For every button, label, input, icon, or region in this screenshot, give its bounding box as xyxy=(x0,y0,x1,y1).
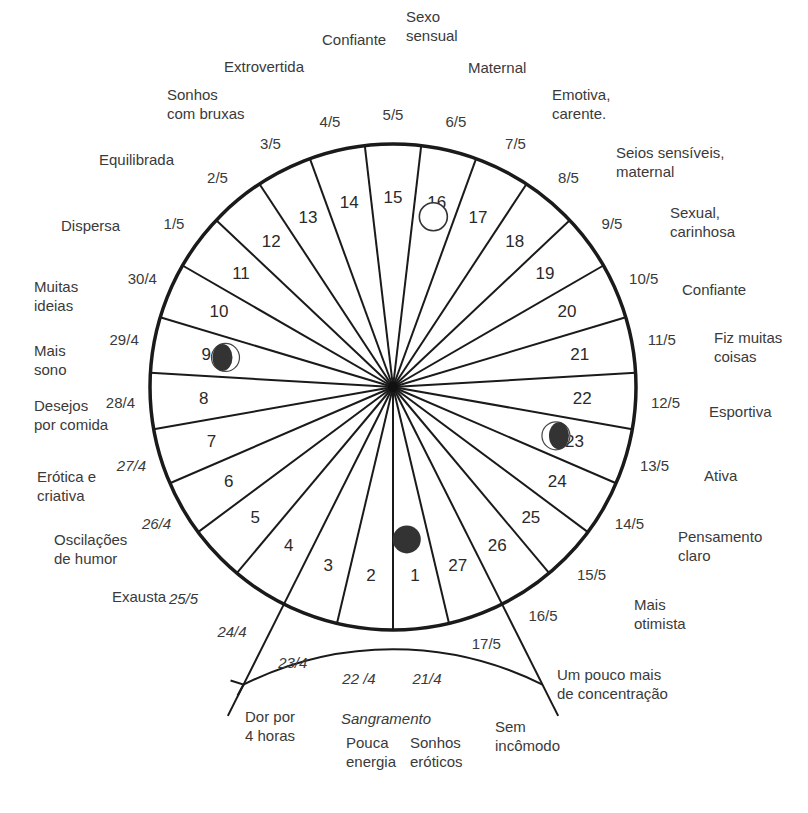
full-moon-icon xyxy=(419,203,447,231)
date-label: 12/5 xyxy=(651,394,680,411)
day-number: 14 xyxy=(340,193,359,212)
day-number: 27 xyxy=(448,556,467,575)
day-number: 9 xyxy=(202,345,211,364)
mood-label: Um pouco maisde concentração xyxy=(557,666,668,702)
day-number: 10 xyxy=(210,302,229,321)
mood-label: Sexosensual xyxy=(406,8,458,44)
new-moon-icon xyxy=(393,525,421,553)
date-label: 23/4 xyxy=(277,654,307,671)
segment-divider xyxy=(393,266,603,388)
day-number: 4 xyxy=(284,536,293,555)
date-label: 21/4 xyxy=(411,670,441,687)
segment-divider xyxy=(154,387,393,429)
day-number: 15 xyxy=(384,188,403,207)
mood-label: Sonhoscom bruxas xyxy=(167,86,245,122)
wheel-hub xyxy=(388,382,398,392)
date-label: 30/4 xyxy=(128,270,157,287)
day-number: 22 xyxy=(573,389,592,408)
mood-label: Maternal xyxy=(468,59,526,76)
date-label: 11/5 xyxy=(648,331,676,348)
mood-label: Fiz muitascoisas xyxy=(714,329,782,365)
date-label: 13/5 xyxy=(640,457,669,474)
date-label: 9/5 xyxy=(602,215,623,232)
mood-label: Confiante xyxy=(322,31,386,48)
day-number: 26 xyxy=(488,536,507,555)
mood-label: Pensamentoclaro xyxy=(678,528,762,564)
cycle-wheel: Sangramento 1234567891011121314151617181… xyxy=(0,0,808,813)
mood-label: Sexual,carinhosa xyxy=(670,204,736,240)
mood-label: Dor por4 horas xyxy=(245,708,295,744)
mood-label: Oscilaçõesde humor xyxy=(54,531,127,567)
day-number: 2 xyxy=(366,566,375,585)
date-label: 28/4 xyxy=(106,394,135,411)
bleed-end-line xyxy=(228,604,284,716)
day-number: 6 xyxy=(224,472,233,491)
day-number: 24 xyxy=(548,472,567,491)
date-label: 2/5 xyxy=(207,169,228,186)
segment-divider xyxy=(150,373,393,387)
mood-label: Maissono xyxy=(34,342,67,378)
mood-label: Maisotimista xyxy=(634,596,686,632)
date-label: 27/4 xyxy=(116,457,146,474)
last-quarter-icon xyxy=(542,422,570,450)
date-label: 16/5 xyxy=(528,607,557,624)
segment-divider xyxy=(393,220,570,387)
segment-divider xyxy=(216,220,393,387)
day-number: 11 xyxy=(232,264,250,283)
date-label: 4/5 xyxy=(320,113,341,130)
date-label: 5/5 xyxy=(383,106,404,123)
date-label: 29/4 xyxy=(110,331,139,348)
date-label: 24/4 xyxy=(216,623,246,640)
day-number: 19 xyxy=(536,264,555,283)
segment-divider xyxy=(393,387,632,429)
mood-label: Ativa xyxy=(704,467,738,484)
segment-divider xyxy=(160,317,393,387)
mood-label: Sonhoseróticos xyxy=(410,734,463,770)
bleeding-label: Sangramento xyxy=(341,710,431,727)
mood-label: Muitasideias xyxy=(34,278,78,314)
day-number: 18 xyxy=(505,232,524,251)
day-number: 17 xyxy=(469,208,488,227)
mood-label: Emotiva,carente. xyxy=(552,86,610,122)
date-label: 26/4 xyxy=(141,515,171,532)
segment-divider xyxy=(393,373,636,387)
date-label: 1/5 xyxy=(164,215,185,232)
date-label: 6/5 xyxy=(446,113,467,130)
date-label: 15/5 xyxy=(577,566,606,583)
day-number: 21 xyxy=(570,345,589,364)
day-number: 13 xyxy=(298,208,317,227)
mood-label: Equilibrada xyxy=(99,151,175,168)
date-label: 10/5 xyxy=(629,270,658,287)
segment-divider xyxy=(393,317,626,387)
segment-divider xyxy=(237,387,393,573)
arrow-head-icon xyxy=(231,681,244,696)
day-number: 12 xyxy=(262,232,281,251)
date-label: 25/5 xyxy=(168,590,199,607)
date-label: 17/5 xyxy=(472,635,501,652)
date-label: 22 /4 xyxy=(341,670,375,687)
first-quarter-icon xyxy=(211,343,239,371)
date-label: 8/5 xyxy=(558,169,579,186)
mood-label: Desejospor comida xyxy=(34,397,109,433)
mood-label: Confiante xyxy=(682,281,746,298)
mood-label: Esportiva xyxy=(709,403,772,420)
date-label: 7/5 xyxy=(505,135,526,152)
mood-label: Seios sensíveis,maternal xyxy=(616,144,724,180)
mood-label: Semincômodo xyxy=(495,718,560,754)
day-number: 1 xyxy=(410,566,419,585)
segment-divider xyxy=(183,266,393,388)
day-number: 25 xyxy=(521,508,540,527)
cycle-diagram: Sangramento 1234567891011121314151617181… xyxy=(0,0,808,813)
segment-divider xyxy=(284,387,393,604)
day-number: 3 xyxy=(323,556,332,575)
day-number: 5 xyxy=(250,508,259,527)
day-number: 7 xyxy=(207,432,216,451)
day-number: 20 xyxy=(558,302,577,321)
mood-label: Poucaenergia xyxy=(346,734,397,770)
mood-label: Dispersa xyxy=(61,217,121,234)
date-label: 3/5 xyxy=(260,135,281,152)
mood-label: Exausta xyxy=(112,588,167,605)
mood-label: Erótica ecriativa xyxy=(37,468,96,504)
date-label: 14/5 xyxy=(615,515,644,532)
day-number: 8 xyxy=(199,389,208,408)
